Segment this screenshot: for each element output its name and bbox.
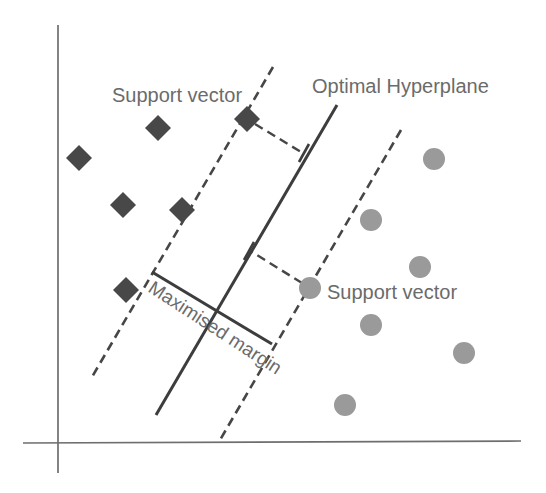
- class2-circle-marker: [360, 314, 382, 336]
- class1-diamond-marker: [234, 106, 260, 132]
- class1-diamond-marker: [113, 277, 139, 303]
- class2-circle-marker: [409, 256, 431, 278]
- support-vector-top-label: Support vector: [112, 84, 242, 106]
- optimal-hyperplane-label: Optimal Hyperplane: [312, 75, 489, 97]
- distance-connector-bottom: [252, 252, 302, 283]
- class1-diamond-marker: [169, 197, 195, 223]
- class1-diamond-marker: [66, 145, 92, 171]
- class2-circle-marker: [334, 394, 356, 416]
- class2-circle-marker: [453, 342, 475, 364]
- optimal-hyperplane-line: [156, 105, 337, 415]
- x-axis: [23, 441, 521, 443]
- support-vector-right-label: Support vector: [327, 281, 457, 303]
- class1-diamond-marker: [145, 115, 171, 141]
- class2-circle-marker: [360, 209, 382, 231]
- distance-connector-top: [255, 124, 301, 152]
- class1-diamond-marker: [110, 192, 136, 218]
- maximised-margin-label: Maximised margin: [145, 277, 286, 379]
- svm-figure: Support vectorOptimal HyperplaneSupport …: [0, 0, 546, 493]
- class2-circle-marker: [299, 277, 321, 299]
- svm-diagram: Support vectorOptimal HyperplaneSupport …: [0, 0, 546, 493]
- class2-circle-marker: [423, 148, 445, 170]
